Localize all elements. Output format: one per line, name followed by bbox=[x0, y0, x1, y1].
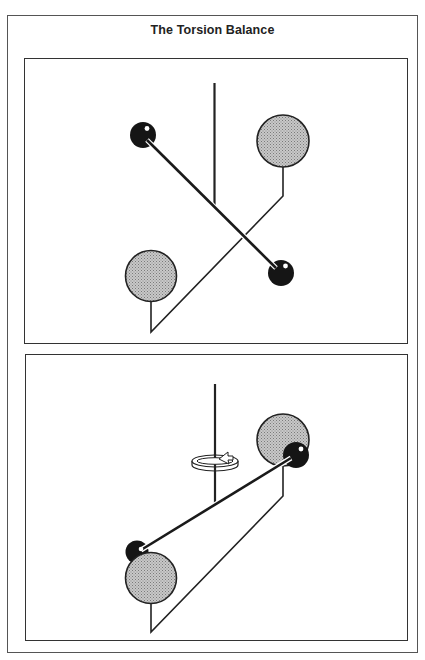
large-ball-right bbox=[257, 115, 309, 167]
large-ball-left bbox=[126, 553, 177, 604]
highlight-icon bbox=[299, 447, 304, 452]
panel-2-scene bbox=[126, 384, 310, 632]
small-ball-right bbox=[283, 442, 309, 468]
rotation-arrow-icon bbox=[192, 452, 238, 471]
large-ball-left bbox=[126, 251, 177, 302]
large-ball-frame bbox=[151, 167, 283, 332]
highlight-icon bbox=[283, 264, 288, 269]
rod bbox=[147, 140, 276, 268]
highlight-icon bbox=[139, 547, 144, 552]
highlight-icon bbox=[145, 126, 150, 131]
panel-1-scene bbox=[126, 83, 310, 332]
large-ball-frame bbox=[151, 466, 283, 632]
torsion-balance-diagram bbox=[0, 0, 425, 660]
